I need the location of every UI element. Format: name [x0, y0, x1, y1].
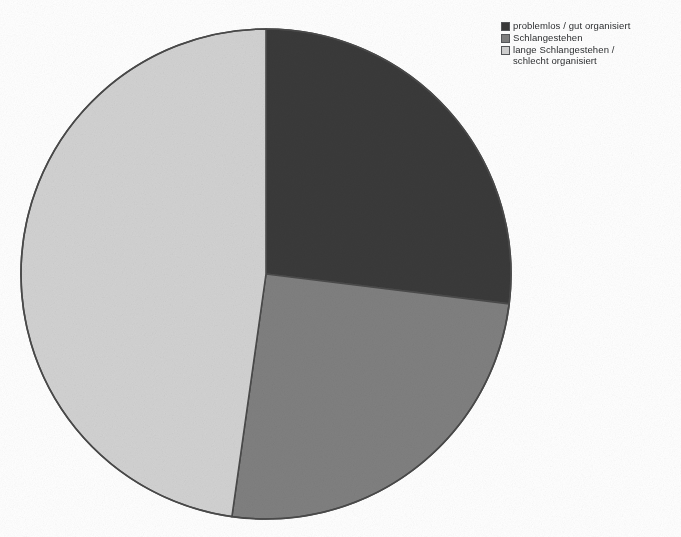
pie-slice[interactable]: [21, 29, 266, 517]
legend-item-schlangestehen[interactable]: Schlangestehen: [501, 32, 679, 43]
legend-label-lange-schlangestehen: lange Schlangestehen / schlecht organisi…: [513, 44, 615, 66]
legend-swatch-light: [501, 46, 510, 55]
pie-slice[interactable]: [232, 274, 509, 519]
legend-item-lange-schlangestehen[interactable]: lange Schlangestehen / schlecht organisi…: [501, 44, 679, 66]
scan-artifact-header-text: [118, 0, 538, 11]
pie-chart-svg: [20, 28, 512, 520]
chart-canvas: problemlos / gut organisiert Schlangeste…: [0, 0, 681, 537]
chart-legend: problemlos / gut organisiert Schlangeste…: [501, 20, 679, 67]
legend-swatch-medium: [501, 34, 510, 43]
legend-label-schlangestehen: Schlangestehen: [513, 32, 583, 43]
pie-slice[interactable]: [266, 29, 511, 304]
legend-swatch-dark: [501, 22, 510, 31]
pie-chart: [20, 28, 512, 520]
legend-item-problemlos[interactable]: problemlos / gut organisiert: [501, 20, 679, 31]
legend-label-problemlos: problemlos / gut organisiert: [513, 20, 630, 31]
